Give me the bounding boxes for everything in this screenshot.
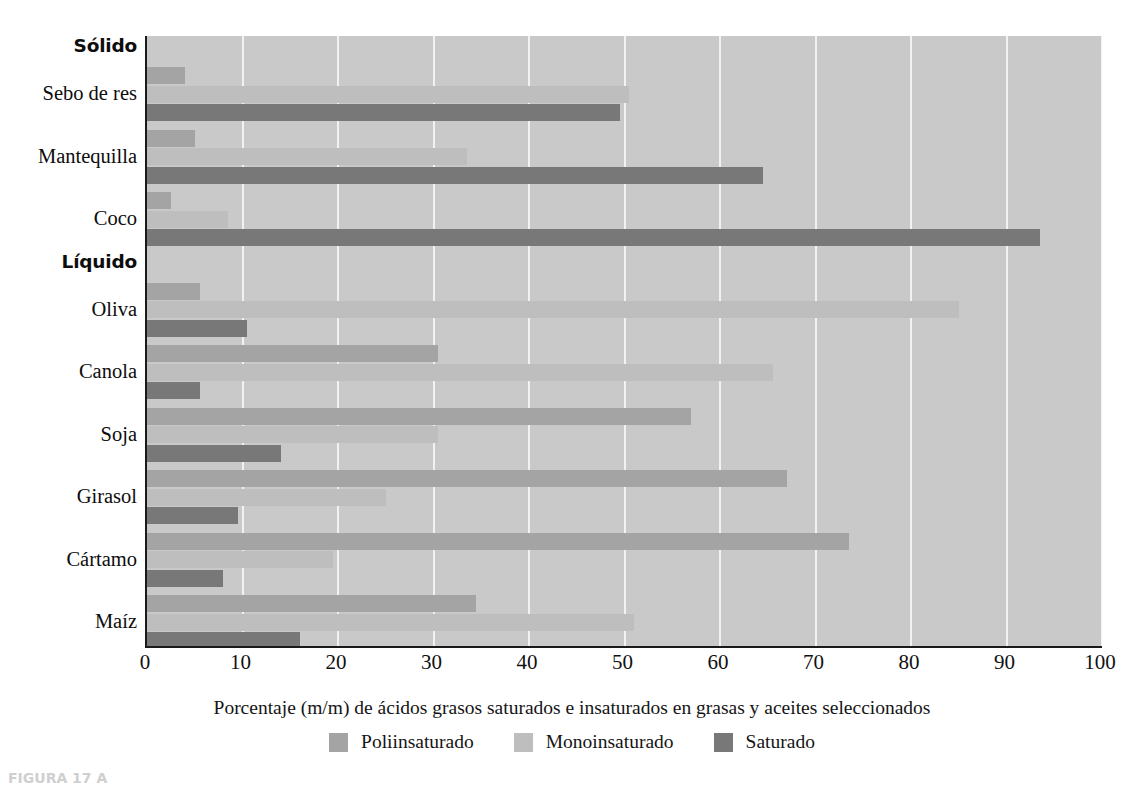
bar-mono-maíz (147, 614, 634, 631)
figure-bar-chart-fatty-acids: SólidoSebo de resMantequillaCocoLíquidoO… (0, 0, 1144, 786)
bar-mono-cártamo (147, 551, 333, 568)
bar-sat-sebo-de-res (147, 104, 620, 121)
bar-sat-coco (147, 229, 1040, 246)
row-label-canola: Canola (0, 361, 137, 382)
row-label-sólido: Sólido (0, 37, 137, 56)
legend-swatch-mono-icon (514, 733, 533, 752)
bar-poly-sebo-de-res (147, 67, 185, 84)
bar-mono-girasol (147, 489, 386, 506)
plot-area (145, 36, 1102, 648)
legend-label-mono: Monoinsaturado (546, 731, 674, 753)
x-tick-label-40: 40 (517, 652, 538, 673)
row-label-coco: Coco (0, 208, 137, 229)
legend-item-mono: Monoinsaturado (514, 731, 674, 753)
bar-sat-maíz (147, 632, 300, 648)
bar-mono-mantequilla (147, 148, 467, 165)
bar-poly-soja (147, 408, 691, 425)
bar-poly-oliva (147, 283, 200, 300)
bar-mono-oliva (147, 301, 959, 318)
x-axis-title: Porcentaje (m/m) de ácidos grasos satura… (0, 697, 1144, 719)
row-label-líquido: Líquido (0, 253, 137, 272)
bar-sat-cártamo (147, 570, 223, 587)
row-label-oliva: Oliva (0, 299, 137, 320)
legend: PoliinsaturadoMonoinsaturadoSaturado (0, 731, 1144, 753)
bar-sat-canola (147, 382, 200, 399)
bar-poly-girasol (147, 470, 787, 487)
legend-item-poly: Poliinsaturado (329, 731, 474, 753)
bar-series-container (147, 36, 1102, 646)
x-axis-tick-labels: 0102030405060708090100 (0, 652, 1144, 682)
legend-swatch-poly-icon (329, 733, 348, 752)
bar-mono-sebo-de-res (147, 86, 629, 103)
bar-poly-maíz (147, 595, 476, 612)
legend-label-sat: Saturado (746, 731, 815, 753)
x-tick-label-10: 10 (230, 652, 251, 673)
x-tick-label-50: 50 (612, 652, 633, 673)
row-label-sebo-de-res: Sebo de res (0, 83, 137, 104)
row-label-cártamo: Cártamo (0, 549, 137, 570)
row-label-maíz: Maíz (0, 611, 137, 632)
bar-mono-soja (147, 426, 438, 443)
x-tick-label-90: 90 (994, 652, 1015, 673)
bar-mono-coco (147, 211, 228, 228)
x-tick-label-30: 30 (421, 652, 442, 673)
category-label-column: SólidoSebo de resMantequillaCocoLíquidoO… (0, 36, 137, 646)
x-tick-label-60: 60 (708, 652, 729, 673)
bar-poly-coco (147, 192, 171, 209)
row-label-soja: Soja (0, 424, 137, 445)
bar-sat-soja (147, 445, 281, 462)
x-tick-label-70: 70 (803, 652, 824, 673)
x-tick-label-0: 0 (140, 652, 151, 673)
bar-sat-girasol (147, 507, 238, 524)
legend-label-poly: Poliinsaturado (361, 731, 474, 753)
row-label-girasol: Girasol (0, 486, 137, 507)
bar-sat-mantequilla (147, 167, 763, 184)
legend-swatch-sat-icon (714, 733, 733, 752)
bar-poly-mantequilla (147, 130, 195, 147)
x-tick-label-20: 20 (326, 652, 347, 673)
row-label-mantequilla: Mantequilla (0, 146, 137, 167)
legend-item-sat: Saturado (714, 731, 815, 753)
bar-poly-cártamo (147, 533, 849, 550)
figure-caption: FIGURA 17 A (8, 770, 708, 784)
x-tick-label-100: 100 (1084, 652, 1116, 673)
bar-poly-canola (147, 345, 438, 362)
bar-sat-oliva (147, 320, 247, 337)
bar-mono-canola (147, 364, 773, 381)
x-tick-label-80: 80 (899, 652, 920, 673)
